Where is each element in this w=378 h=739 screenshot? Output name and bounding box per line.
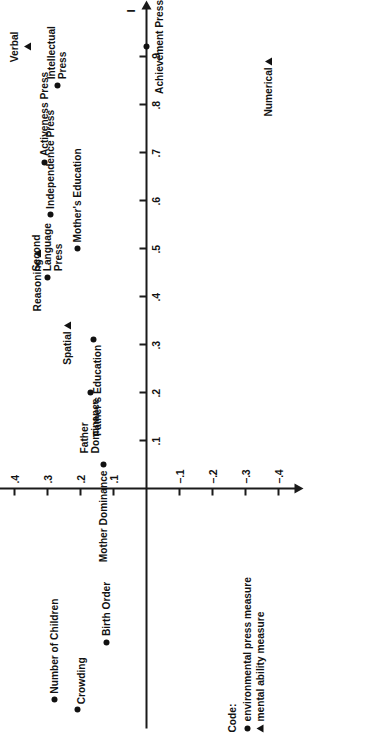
data-point-label: Reasoning bbox=[32, 259, 43, 311]
data-point-label: Number of Children bbox=[48, 598, 59, 693]
axis-ii-tick-label: .2 bbox=[74, 475, 86, 483]
axis-ii-tick-label: .4 bbox=[8, 475, 20, 483]
data-point-label: Father Dominance bbox=[79, 398, 101, 453]
axis-ii-tick bbox=[112, 488, 113, 495]
filled-circle-icon bbox=[100, 461, 106, 467]
axis-i-tick bbox=[139, 103, 146, 104]
legend-entries: environmental press measuremental abilit… bbox=[240, 577, 267, 732]
axis-i-line bbox=[145, 8, 147, 728]
data-point-label: Verbal bbox=[9, 31, 20, 62]
axis-ii-tick bbox=[211, 488, 212, 495]
data-point-label: Mother Dominance bbox=[98, 470, 109, 562]
axis-i-tick bbox=[139, 247, 146, 248]
axis-i-label: I bbox=[124, 9, 136, 12]
data-point-label: Mother's Education bbox=[71, 148, 82, 242]
filled-triangle-icon bbox=[253, 724, 266, 732]
filled-triangle-icon bbox=[24, 42, 31, 50]
axis-i-tick bbox=[139, 151, 146, 152]
axis-i-tick-label: .5 bbox=[149, 245, 161, 253]
filled-triangle-icon bbox=[265, 57, 272, 65]
axis-i-tick bbox=[139, 343, 146, 344]
legend-entry: environmental press measure bbox=[240, 577, 253, 732]
axis-ii-tick bbox=[46, 488, 47, 495]
axis-i-arrow-icon bbox=[141, 0, 151, 9]
axis-ii-tick bbox=[178, 488, 179, 495]
axis-i-tick-label: .8 bbox=[149, 101, 161, 109]
axis-ii-tick bbox=[244, 488, 245, 495]
filled-circle-icon bbox=[74, 245, 80, 251]
axis-i-tick bbox=[139, 295, 146, 296]
axis-ii-tick-label: –.1 bbox=[173, 469, 185, 483]
filled-circle-icon bbox=[87, 389, 93, 395]
data-point-label: Crowding bbox=[75, 657, 86, 704]
axis-i-tick-label: .7 bbox=[149, 149, 161, 157]
axis-i-tick bbox=[139, 391, 146, 392]
axis-ii-tick bbox=[13, 488, 14, 495]
figure-rotation-wrapper: I II .1.2.3.4.5.6.7.8.9.6.5.4.3.2.1–.1–.… bbox=[0, 0, 378, 739]
legend: Code: environmental press measuremental … bbox=[225, 577, 266, 732]
axis-i-tick bbox=[139, 55, 146, 56]
filled-circle-icon bbox=[90, 336, 96, 342]
axis-ii-tick-label: –.3 bbox=[239, 469, 251, 483]
axis-ii-tick-label: –.4 bbox=[272, 469, 284, 483]
filled-circle-icon bbox=[103, 639, 109, 645]
axis-i-tick bbox=[139, 439, 146, 440]
filled-circle-icon bbox=[143, 43, 149, 49]
legend-entry: mental ability measure bbox=[253, 577, 266, 732]
legend-entry-label: mental ability measure bbox=[253, 611, 266, 721]
data-point-label: Independence Press bbox=[45, 109, 56, 208]
filled-triangle-icon bbox=[63, 321, 70, 329]
axis-i-tick-label: .6 bbox=[149, 197, 161, 205]
filled-triangle-icon bbox=[34, 249, 41, 257]
data-point-label: Birth Order bbox=[101, 581, 112, 635]
filled-circle-icon bbox=[51, 696, 57, 702]
axis-ii-tick bbox=[277, 488, 278, 495]
filled-circle-icon bbox=[47, 211, 53, 217]
filled-circle-icon bbox=[44, 274, 50, 280]
axis-i-tick-label: .1 bbox=[149, 437, 161, 445]
legend-title: Code: bbox=[225, 577, 238, 732]
scatter-plot-canvas: I II .1.2.3.4.5.6.7.8.9.6.5.4.3.2.1–.1–.… bbox=[0, 0, 378, 739]
axis-ii-tick-label: .3 bbox=[41, 475, 53, 483]
axis-ii-tick-label: –.2 bbox=[206, 469, 218, 483]
data-point-label: Spatial bbox=[61, 331, 72, 364]
axis-i-tick-label: .3 bbox=[149, 341, 161, 349]
axis-ii-negative-arrow-icon bbox=[294, 483, 303, 493]
axis-i-tick-label: .2 bbox=[149, 389, 161, 397]
axis-ii-tick bbox=[79, 488, 80, 495]
data-point-label: Numerical bbox=[263, 67, 274, 116]
axis-i-tick-label: .4 bbox=[149, 293, 161, 301]
axis-i-tick bbox=[139, 199, 146, 200]
filled-circle-icon bbox=[240, 724, 253, 732]
legend-entry-label: environmental press measure bbox=[240, 577, 253, 721]
filled-circle-icon bbox=[74, 706, 80, 712]
data-point-label: Achievement Press bbox=[153, 0, 164, 93]
filled-circle-icon bbox=[54, 82, 60, 88]
axis-ii-line bbox=[0, 487, 295, 489]
